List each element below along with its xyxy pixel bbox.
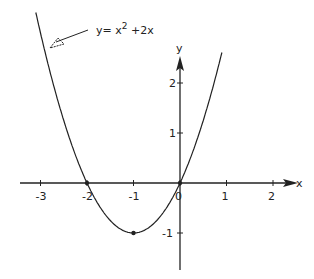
y-tick-label: 1 [169,127,176,140]
annotation-label: y= x2 +2x [96,21,154,37]
x-tick-label: -3 [36,190,47,203]
x-tick-label: -1 [129,190,140,203]
y-tick-label: 2 [169,77,176,90]
data-point [85,181,89,185]
x-axis-label: x [296,177,303,190]
y-tick-label: -1 [162,227,173,240]
x-tick-label: 1 [222,190,229,203]
y-axis-label: y [176,42,183,55]
plot-area: xy-3-2-1012-112y= x2 +2x [0,0,314,279]
chart: xy-3-2-1012-112y= x2 +2x [0,0,314,279]
data-point [178,181,182,185]
x-tick-label: 2 [268,190,275,203]
data-point [131,231,135,235]
